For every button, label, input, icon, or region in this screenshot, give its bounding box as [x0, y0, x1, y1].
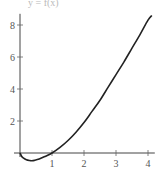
- y-tick-label: 6: [10, 52, 15, 63]
- chart: y = f(x) 1234 2468: [0, 0, 165, 176]
- y-tick-label: 8: [10, 20, 15, 31]
- x-tick-label: 3: [114, 158, 119, 169]
- x-tick-label: 4: [146, 158, 151, 169]
- y-ticks: 2468: [10, 20, 23, 127]
- x-tick-label: 1: [50, 158, 55, 169]
- y-tick-label: 4: [10, 84, 15, 95]
- x-tick-label: 2: [82, 158, 87, 169]
- axes: [14, 14, 155, 157]
- y-tick-label: 2: [10, 116, 15, 127]
- chart-title: y = f(x): [28, 0, 59, 9]
- function-curve: [20, 15, 152, 160]
